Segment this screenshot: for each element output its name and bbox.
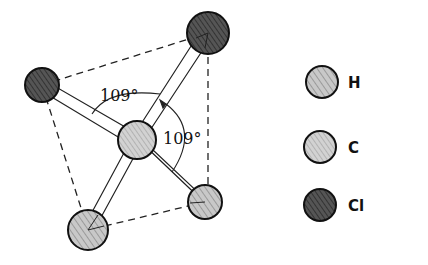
legend-cl-label: Cl [348, 197, 364, 215]
atom-c-center [118, 121, 156, 159]
atom-cl-left [25, 68, 59, 102]
legend-c-label: C [348, 139, 359, 157]
legend: H C Cl [304, 66, 364, 221]
legend-c-swatch [304, 131, 336, 163]
legend-h-swatch [306, 66, 338, 98]
angle-label-1: 109° [100, 86, 139, 105]
legend-h-label: H [348, 74, 361, 92]
legend-cl-swatch [304, 189, 336, 221]
angle-label-2: 109° [163, 129, 202, 148]
molecule-diagram: 109° 109° H C Cl [0, 0, 428, 265]
